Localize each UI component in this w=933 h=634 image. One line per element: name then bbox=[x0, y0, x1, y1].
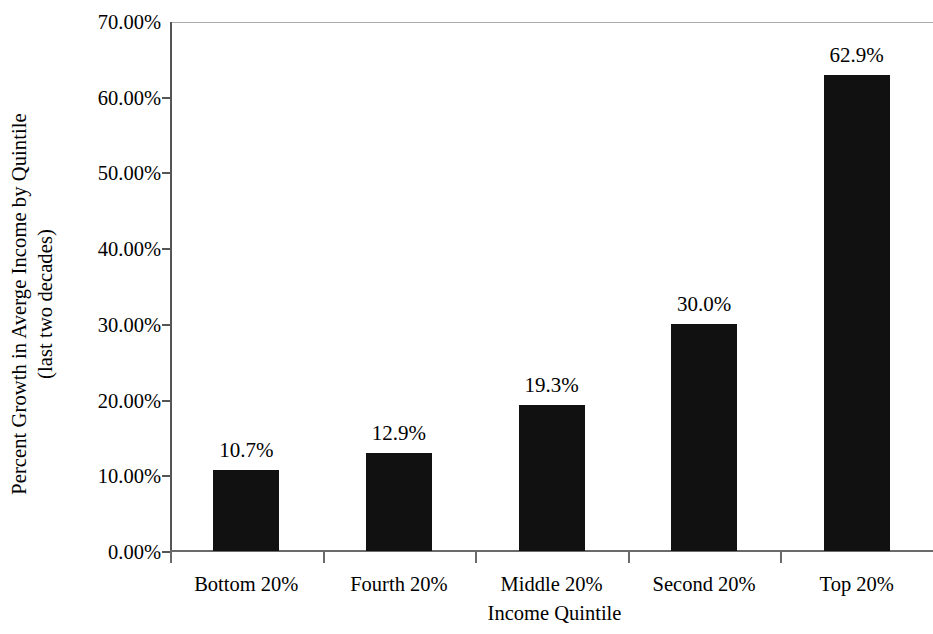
y-axis-tick-mark bbox=[162, 400, 171, 402]
y-axis-tick-label: 30.00% bbox=[60, 315, 170, 336]
plot-area: 10.7%12.9%19.3%30.0%62.9% bbox=[170, 22, 933, 552]
y-axis-title: Percent Growth in Averge Income by Quint… bbox=[5, 24, 59, 584]
y-axis-tick-mark bbox=[162, 475, 171, 477]
bar-value-label: 62.9% bbox=[830, 45, 884, 66]
y-axis-tick-label: 10.00% bbox=[60, 466, 170, 487]
bar-value-label: 12.9% bbox=[372, 423, 426, 444]
x-axis-category-label: Middle 20% bbox=[501, 574, 603, 595]
x-axis-title-label: Income Quintile bbox=[488, 602, 622, 624]
x-axis-origin-tick-mark bbox=[170, 551, 172, 563]
x-axis-tick-mark bbox=[628, 551, 630, 563]
bar bbox=[824, 75, 890, 551]
y-axis-tick-mark bbox=[162, 97, 171, 99]
bar bbox=[519, 405, 585, 551]
y-axis-line bbox=[170, 22, 172, 552]
x-axis-category-label: Bottom 20% bbox=[194, 574, 298, 595]
bar bbox=[213, 470, 279, 551]
bar-value-label: 19.3% bbox=[524, 375, 578, 396]
x-axis-tick-mark bbox=[323, 551, 325, 563]
y-axis-tick-labels: 0.00%10.00%20.00%30.00%40.00%50.00%60.00… bbox=[60, 0, 170, 634]
y-axis-tick-label: 20.00% bbox=[60, 390, 170, 411]
bar-value-label: 10.7% bbox=[219, 440, 273, 461]
y-axis-title-line-1: Percent Growth in Averge Income by Quint… bbox=[6, 113, 32, 495]
y-axis-tick-label: 50.00% bbox=[60, 163, 170, 184]
x-axis-title: Income Quintile bbox=[0, 603, 933, 624]
y-axis-tick-label: 60.00% bbox=[60, 87, 170, 108]
x-axis-category-label: Top 20% bbox=[820, 574, 894, 595]
y-axis-tick-label: 0.00% bbox=[60, 542, 170, 563]
x-axis-category-label: Fourth 20% bbox=[350, 574, 447, 595]
bar bbox=[366, 453, 432, 551]
x-axis-tick-mark bbox=[780, 551, 782, 563]
y-axis-tick-mark bbox=[162, 324, 171, 326]
bar-chart: Percent Growth in Averge Income by Quint… bbox=[0, 0, 933, 634]
x-axis-category-label: Second 20% bbox=[653, 574, 756, 595]
y-axis-tick-label: 70.00% bbox=[60, 12, 170, 33]
bar-value-label: 30.0% bbox=[677, 294, 731, 315]
y-axis-tick-mark bbox=[162, 172, 171, 174]
y-axis-tick-mark bbox=[162, 248, 171, 250]
bar bbox=[671, 324, 737, 551]
x-axis-tick-mark bbox=[475, 551, 477, 563]
y-axis-tick-label: 40.00% bbox=[60, 239, 170, 260]
y-axis-title-line-2: (last two decades) bbox=[32, 229, 58, 379]
gridline-top bbox=[170, 22, 933, 23]
